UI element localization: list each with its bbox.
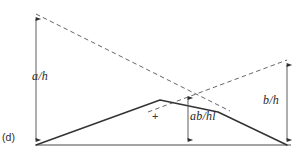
center-dimension-label: ab/hl bbox=[190, 109, 216, 124]
left-dimension-label: a/h bbox=[32, 69, 48, 84]
dashed-descending-line bbox=[36, 14, 230, 111]
positive-sign-marker: + bbox=[152, 110, 158, 122]
right-dimension-label: b/h bbox=[263, 93, 279, 108]
figure-container: (d) a/h b/h ab/hl + bbox=[0, 0, 302, 159]
panel-letter-label: (d) bbox=[2, 131, 15, 143]
solid-moment-curve bbox=[36, 100, 287, 145]
